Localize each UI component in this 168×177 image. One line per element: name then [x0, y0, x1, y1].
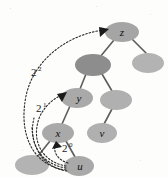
node-mid-highlighted: [75, 54, 111, 76]
jump-label-2-2-exponent: 2: [38, 65, 42, 73]
node-mid-right: [100, 90, 132, 110]
jump-label-2-0-base: 2: [62, 142, 68, 154]
diagram-background: [0, 0, 168, 177]
node-label-z: z: [119, 26, 125, 38]
jump-label-2-0-exponent: 0: [69, 141, 73, 149]
tree-diagram-figure: z y x v u 2 0 2 1 2: [0, 0, 168, 177]
node-label-u: u: [77, 160, 83, 172]
node-label-x: x: [55, 127, 61, 139]
jump-label-2-1-exponent: 1: [43, 101, 47, 109]
jump-label-2-1-base: 2: [36, 102, 42, 114]
jump-label-2-2-base: 2: [31, 66, 37, 78]
node-label-y: y: [76, 92, 82, 104]
node-label-v: v: [100, 127, 105, 139]
diagram-canvas: z y x v u 2 0 2 1 2: [0, 0, 168, 177]
node-z-right-child: [132, 53, 164, 73]
